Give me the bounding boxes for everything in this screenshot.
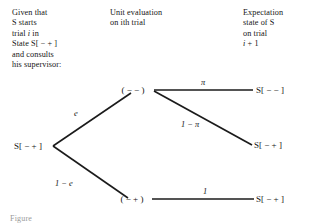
figure-caption: Figure: [10, 214, 32, 223]
node-lower-label: ( − + ): [121, 194, 144, 204]
edge-label-pi: π: [201, 78, 206, 87]
edge-label-one-minus-e: 1 − e: [55, 179, 73, 188]
edge-root-to-lower-node: [53, 146, 128, 198]
figure-canvas: Given that S starts trial i in State S[ …: [0, 0, 309, 224]
edge-upper-to-terminal-2: [154, 91, 252, 145]
node-upper-label: ( − − ): [122, 85, 145, 95]
edge-label-one-minus-pi: 1 − π: [181, 120, 200, 129]
terminal-label-3: S[ − + ]: [256, 194, 284, 204]
root-node-label: S[ − + ]: [14, 141, 42, 151]
terminal-label-2: S[ − + ]: [254, 140, 282, 150]
edge-label-e: e: [74, 109, 78, 118]
terminal-label-1: S[ − − ]: [256, 85, 284, 95]
edge-root-to-upper-node: [53, 93, 131, 146]
edge-label-one: 1: [203, 187, 207, 196]
tree-diagram: S[ − + ] ( − − ) ( − + ) S[ − − ] S[ − +…: [0, 0, 309, 224]
